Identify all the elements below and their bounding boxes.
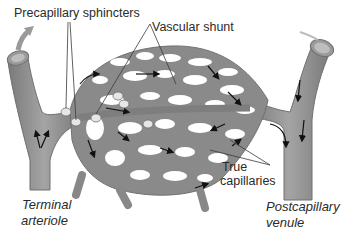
label-true-capillaries-line2: capillaries	[220, 174, 276, 188]
label-true-capillaries-line1: True	[222, 160, 247, 174]
label-terminal-arteriole-line2: arteriole	[21, 213, 68, 228]
label-postcapillary-venule-line1: Postcapillary	[266, 199, 340, 214]
label-vascular-shunt: Vascular shunt	[152, 20, 234, 34]
terminal-arteriole-vessel	[6, 26, 80, 190]
label-postcapillary-venule-line2: venule	[266, 215, 304, 230]
capillary-bed-diagram: Precapillary sphincters Vascular shunt T…	[0, 0, 352, 233]
label-precapillary-sphincters: Precapillary sphincters	[14, 6, 140, 20]
label-terminal-arteriole-line1: Terminal	[22, 197, 71, 212]
